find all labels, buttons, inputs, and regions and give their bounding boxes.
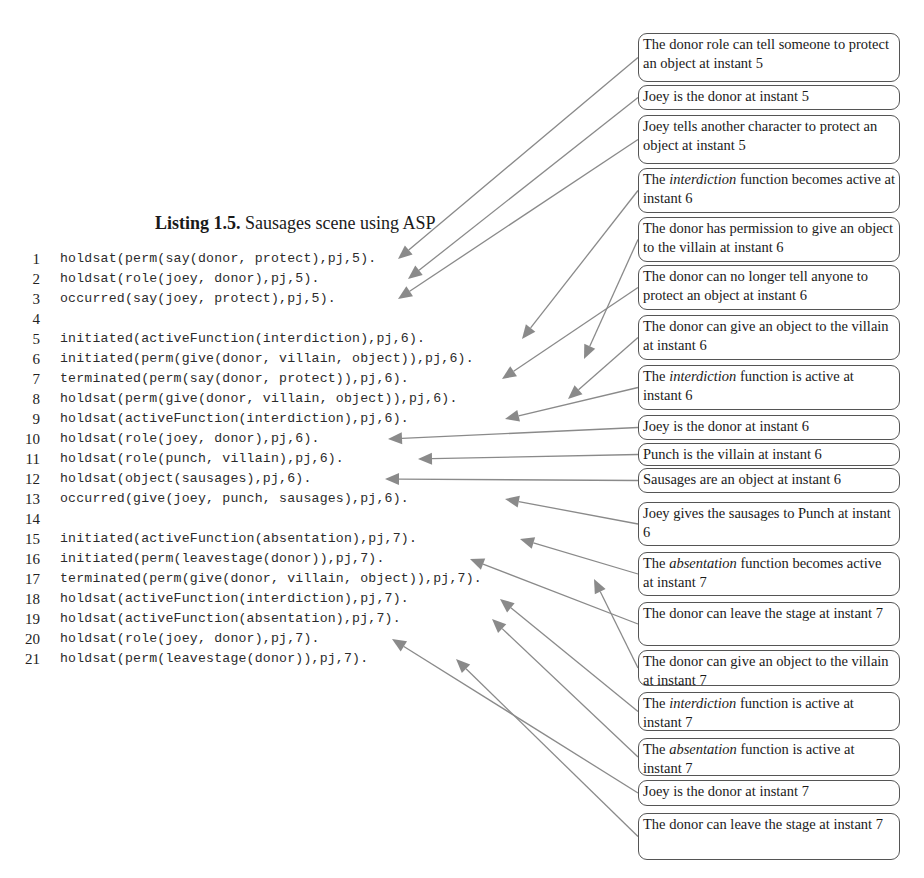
annotation-text: The — [643, 741, 669, 757]
line-number: 8 — [0, 389, 40, 409]
annotation-text: Joey is the donor at instant 6 — [643, 418, 809, 434]
arrowhead-icon — [456, 659, 470, 673]
line-number: 3 — [0, 289, 40, 309]
arrow-line — [409, 58, 638, 250]
annotation-text: The donor can give an object to the vill… — [643, 318, 889, 353]
line-number: 4 — [0, 309, 40, 329]
annotation-text: Joey is the donor at instant 7 — [643, 783, 809, 799]
arrowhead-icon — [392, 639, 407, 652]
arrowhead-icon — [500, 599, 515, 612]
annotation-emphasis: absentation — [669, 555, 737, 571]
code-text: holdsat(role(joey, donor),pj,6). — [60, 429, 320, 449]
arrow-line — [600, 592, 638, 668]
arrow-line — [519, 388, 638, 416]
arrow-line — [514, 288, 638, 372]
line-number: 5 — [0, 329, 40, 349]
arrow-line — [432, 455, 638, 459]
line-number: 15 — [0, 529, 40, 549]
line-number: 10 — [0, 429, 40, 449]
arrowhead-icon — [398, 245, 413, 259]
arrowhead-icon — [388, 432, 402, 444]
line-number: 18 — [0, 589, 40, 609]
arrow-line — [404, 646, 638, 793]
listing-caption-text: Sausages scene using ASP — [245, 213, 436, 233]
code-text: holdsat(perm(leavestage(donor)),pj,7). — [60, 649, 368, 669]
annotation-text: Punch is the villain at instant 6 — [643, 446, 822, 462]
arrowhead-icon — [385, 473, 399, 485]
arrowhead-icon — [408, 266, 423, 279]
annotation-box: The interdiction function is active at i… — [638, 692, 900, 731]
annotation-text: The donor has permission to give an obje… — [643, 220, 893, 255]
annotation-text: The — [643, 171, 669, 187]
annotation-box: The absentation function becomes active … — [638, 552, 900, 596]
annotation-text: The — [643, 695, 669, 711]
annotation-box: The donor can no longer tell anyone to p… — [638, 265, 900, 310]
arrow-line — [533, 543, 638, 574]
annotation-box: Sausages are an object at instant 6 — [638, 468, 900, 493]
arrow-line — [466, 669, 638, 837]
arrow-line — [419, 98, 638, 271]
code-text: holdsat(activeFunction(interdiction),pj,… — [60, 409, 409, 429]
annotation-box: The donor has permission to give an obje… — [638, 217, 900, 262]
line-number: 1 — [0, 249, 40, 269]
arrow-line — [590, 240, 638, 347]
arrowhead-icon — [505, 496, 520, 508]
arrowhead-icon — [568, 385, 582, 399]
code-text: holdsat(object(sausages),pj,6). — [60, 469, 312, 489]
code-text: initiated(activeFunction(interdiction),p… — [60, 329, 425, 349]
line-number: 14 — [0, 509, 40, 529]
annotation-text: The donor can no longer tell anyone to p… — [643, 268, 868, 303]
arrowhead-icon — [522, 324, 535, 339]
line-number: 12 — [0, 469, 40, 489]
arrow-line — [410, 140, 638, 292]
annotation-box: Punch is the villain at instant 6 — [638, 443, 900, 466]
annotation-box: The donor can give an object to the vill… — [638, 315, 900, 360]
annotation-box: The donor can give an object to the vill… — [638, 650, 900, 686]
annotation-text: The — [643, 555, 669, 571]
line-number: 20 — [0, 629, 40, 649]
line-number: 21 — [0, 649, 40, 669]
line-number: 13 — [0, 489, 40, 509]
annotation-text: The donor can give an object to the vill… — [643, 653, 889, 688]
code-text: initiated(activeFunction(absentation),pj… — [60, 529, 417, 549]
code-text: terminated(perm(say(donor, protect)),pj,… — [60, 369, 409, 389]
arrow-line — [511, 608, 638, 712]
code-text: holdsat(perm(give(donor, villain, object… — [60, 389, 458, 409]
code-text: holdsat(activeFunction(absentation),pj,7… — [60, 609, 401, 629]
arrowhead-icon — [594, 579, 606, 594]
annotation-box: Joey gives the sausages to Punch at inst… — [638, 502, 900, 546]
annotation-emphasis: interdiction — [669, 171, 736, 187]
annotation-box: The donor role can tell someone to prote… — [638, 33, 900, 82]
code-text: occurred(say(joey, protect),pj,5). — [60, 289, 336, 309]
annotation-box: The interdiction function becomes active… — [638, 168, 900, 213]
annotation-box: Joey is the donor at instant 6 — [638, 415, 900, 440]
code-text: holdsat(perm(say(donor, protect),pj,5). — [60, 249, 376, 269]
annotation-text: Joey gives the sausages to Punch at inst… — [643, 505, 891, 540]
annotation-text: The donor can leave the stage at instant… — [643, 605, 883, 621]
arrowhead-icon — [492, 619, 506, 633]
line-number: 7 — [0, 369, 40, 389]
annotation-text: Joey tells another character to protect … — [643, 118, 877, 153]
annotation-text: Sausages are an object at instant 6 — [643, 471, 841, 487]
arrowhead-icon — [398, 286, 413, 299]
arrow-line — [519, 502, 638, 524]
arrow-line — [402, 428, 638, 439]
line-number: 6 — [0, 349, 40, 369]
annotation-box: Joey tells another character to protect … — [638, 115, 900, 164]
listing-caption: Listing 1.5. Sausages scene using ASP — [155, 213, 436, 234]
line-number: 9 — [0, 409, 40, 429]
line-number: 17 — [0, 569, 40, 589]
arrowhead-icon — [502, 366, 517, 379]
arrowhead-icon — [505, 410, 520, 422]
line-number: 2 — [0, 269, 40, 289]
annotation-box: The absentation function is active at in… — [638, 738, 900, 776]
code-text: terminated(perm(give(donor, villain, obj… — [60, 569, 482, 589]
annotation-box: The donor can leave the stage at instant… — [638, 813, 900, 860]
arrow-line — [399, 479, 638, 480]
arrow-line — [579, 338, 638, 390]
annotation-emphasis: absentation — [669, 741, 737, 757]
code-text: holdsat(role(joey, donor),pj,7). — [60, 629, 320, 649]
arrow-line — [483, 564, 638, 624]
code-text: holdsat(role(joey, donor),pj,5). — [60, 269, 320, 289]
arrowhead-icon — [584, 344, 595, 359]
